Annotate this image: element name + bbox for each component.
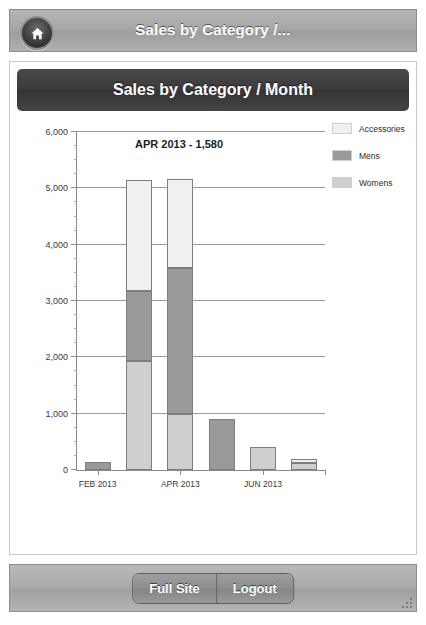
- y-axis-minor-tick: [74, 159, 77, 160]
- chart-bar-segment[interactable]: [209, 419, 235, 470]
- chart-gridline: [77, 356, 325, 357]
- logout-button[interactable]: Logout: [216, 574, 293, 603]
- chart-bar-segment[interactable]: [167, 268, 193, 413]
- chart-bar[interactable]: [209, 419, 235, 470]
- y-axis-label: 2,000: [45, 352, 68, 362]
- chart-bar[interactable]: [250, 447, 276, 470]
- chart-bar[interactable]: [85, 462, 111, 470]
- chart-bar-segment[interactable]: [167, 414, 193, 470]
- chart-container: 01,0002,0003,0004,0005,0006,000FEB 2013A…: [17, 120, 409, 520]
- chart-bar[interactable]: [167, 179, 193, 470]
- legend-label: Mens: [359, 151, 380, 161]
- chart-title: Sales by Category / Month: [113, 81, 313, 99]
- chart-bar-segment[interactable]: [126, 180, 152, 291]
- x-axis-tick: [180, 470, 181, 475]
- x-axis-tick: [98, 470, 99, 475]
- y-axis-minor-tick: [74, 385, 77, 386]
- page-title: Sales by Category /...: [10, 21, 416, 38]
- chart-title-bar: Sales by Category / Month: [17, 69, 409, 111]
- y-axis-minor-tick: [74, 427, 77, 428]
- legend-item[interactable]: Womens: [332, 177, 408, 188]
- legend-swatch: [332, 150, 352, 161]
- x-axis-label: FEB 2013: [79, 479, 117, 489]
- y-axis-minor-tick: [74, 230, 77, 231]
- content-panel: Sales by Category / Month 01,0002,0003,0…: [9, 61, 417, 555]
- y-axis-minor-tick: [74, 272, 77, 273]
- chart-legend: AccessoriesMensWomens: [332, 123, 408, 204]
- resize-grip-icon[interactable]: [400, 596, 412, 608]
- chart-bar-segment[interactable]: [85, 462, 111, 470]
- y-axis-label: 4,000: [45, 240, 68, 250]
- x-axis-label: JUN 2013: [244, 479, 282, 489]
- chart-gridline: [77, 300, 325, 301]
- chart-bar-segment[interactable]: [167, 179, 193, 268]
- chart-bar-segment[interactable]: [291, 459, 317, 463]
- app-footer: Full Site Logout: [9, 564, 417, 612]
- legend-swatch: [332, 123, 352, 134]
- y-axis-minor-tick: [74, 201, 77, 202]
- y-axis-minor-tick: [74, 286, 77, 287]
- x-axis-end-tick: [325, 470, 326, 475]
- y-axis-tick: [71, 356, 77, 357]
- chart-plot-area: 01,0002,0003,0004,0005,0006,000FEB 2013A…: [76, 132, 325, 471]
- legend-label: Womens: [359, 178, 392, 188]
- app-window: Sales by Category /... Sales by Category…: [0, 0, 426, 625]
- chart-bar[interactable]: [291, 459, 317, 470]
- y-axis-tick: [71, 131, 77, 132]
- footer-button-group: Full Site Logout: [132, 573, 294, 604]
- chart-bar-segment[interactable]: [250, 447, 276, 470]
- chart-annotation: APR 2013 - 1,580: [135, 138, 223, 150]
- y-axis-tick: [71, 413, 77, 414]
- chart-bar-segment[interactable]: [291, 463, 317, 470]
- y-axis-label: 0: [63, 465, 68, 475]
- x-axis-tick: [263, 470, 264, 475]
- chart-gridline: [77, 131, 325, 132]
- y-axis-minor-tick: [74, 173, 77, 174]
- chart-gridline: [77, 413, 325, 414]
- y-axis-label: 6,000: [45, 127, 68, 137]
- full-site-button[interactable]: Full Site: [133, 574, 216, 603]
- legend-swatch: [332, 177, 352, 188]
- chart-gridline: [77, 187, 325, 188]
- y-axis-label: 3,000: [45, 296, 68, 306]
- x-axis-label: APR 2013: [161, 479, 200, 489]
- y-axis-minor-tick: [74, 314, 77, 315]
- chart-bar[interactable]: [126, 180, 152, 470]
- legend-label: Accessories: [359, 124, 405, 134]
- chart-gridline: [77, 244, 325, 245]
- app-header: Sales by Category /...: [9, 9, 417, 52]
- y-axis-minor-tick: [74, 328, 77, 329]
- y-axis-minor-tick: [74, 399, 77, 400]
- y-axis-tick: [71, 187, 77, 188]
- legend-item[interactable]: Mens: [332, 150, 408, 161]
- y-axis-minor-tick: [74, 216, 77, 217]
- chart-bar-segment[interactable]: [126, 291, 152, 361]
- y-axis-minor-tick: [74, 370, 77, 371]
- y-axis-minor-tick: [74, 342, 77, 343]
- y-axis-tick: [71, 469, 77, 470]
- legend-item[interactable]: Accessories: [332, 123, 408, 134]
- chart-bar-segment[interactable]: [126, 361, 152, 470]
- y-axis-label: 1,000: [45, 409, 68, 419]
- y-axis-tick: [71, 244, 77, 245]
- y-axis-minor-tick: [74, 145, 77, 146]
- y-axis-minor-tick: [74, 455, 77, 456]
- y-axis-label: 5,000: [45, 183, 68, 193]
- y-axis-tick: [71, 300, 77, 301]
- y-axis-minor-tick: [74, 441, 77, 442]
- y-axis-minor-tick: [74, 258, 77, 259]
